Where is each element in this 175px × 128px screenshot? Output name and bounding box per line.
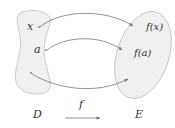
- point-x: [38, 26, 40, 28]
- label-a: a: [34, 43, 41, 56]
- codomain-label: E: [134, 108, 143, 121]
- point-unlabeled-domain: [30, 72, 32, 74]
- function-label: f: [78, 98, 85, 111]
- label-x: x: [27, 20, 34, 33]
- label-fa: f(a): [133, 47, 152, 58]
- domain-label: D: [32, 108, 42, 121]
- mapping-arrow-x: [40, 13, 133, 27]
- function-mapping-diagram: x a f(x) f(a) D E f: [0, 0, 175, 128]
- label-fx: f(x): [145, 21, 163, 32]
- mapping-arrow-a: [47, 39, 122, 50]
- point-a: [45, 49, 47, 51]
